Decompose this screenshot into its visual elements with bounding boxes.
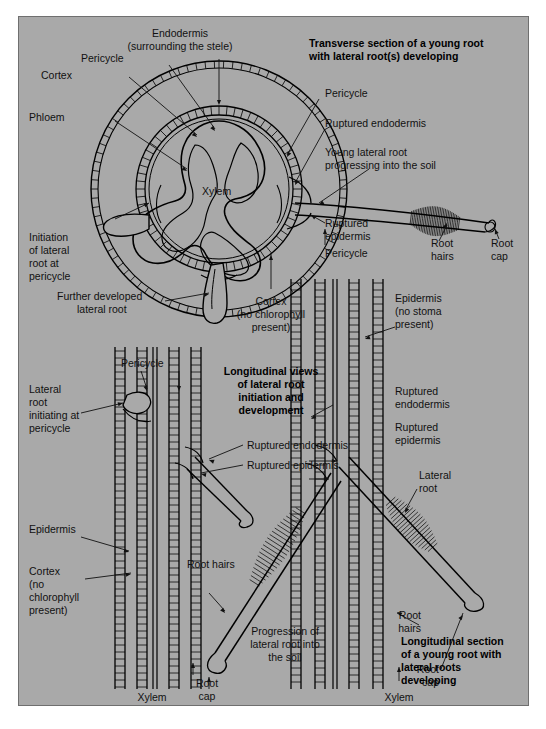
lateral-root-initiation-left [104,214,149,236]
label-pericycle-right: Pericycle [325,87,368,99]
right-lateral-root-cap [465,593,484,611]
diagram-labels: Transverse section of a young root with … [29,27,513,703]
lower-lateral-root-cap [208,653,227,673]
label-pericycle-right-2: Pericycle [325,247,368,259]
label-ruptured-endodermis-r-line1: Ruptured [395,385,438,397]
root-hairs-transverse [410,206,460,236]
lateral-root-initiating-bulge [123,392,151,413]
label-further-developed-line1: Further developed [57,290,142,302]
label-progression-line3: the soil [268,651,301,663]
label-initiation-line1: Initiation [29,231,68,243]
ruptured-endodermis-flap-middle [185,447,203,463]
label-pericycle-longitudinal: Pericycle [121,357,164,369]
label-phloem: Phloem [29,111,65,123]
label-progression-line2: lateral root into [250,638,320,650]
label-cortex-nochl-line3: present) [252,321,291,333]
label-root-hairs-r-line1: Root [399,609,421,621]
label-root-cap-transverse-line2: cap [491,250,508,262]
label-cortex-longitudinal-line2: (no [29,578,44,590]
label-epidermis-nostoma-line1: Epidermis [395,292,442,304]
label-root-hairs-mid: Root hairs [187,558,235,570]
label-cortex-transverse: Cortex [41,69,73,81]
label-epidermis-nostoma-line3: present) [395,318,434,330]
label-pericycle-left: Pericycle [81,52,124,64]
root-hairs-lower-middle [250,508,306,586]
label-lateral-root-line2: root [419,482,437,494]
label-lateral-root-init-line1: Lateral [29,383,61,395]
label-root-cap-transverse-line1: Root [491,237,513,249]
label-root-cap-mid-line1: Root [196,677,218,689]
root-anatomy-diagram: Transverse section of a young root with … [19,17,530,707]
label-epidermis-longitudinal: Epidermis [29,523,76,535]
label-initiation-line2: of lateral [29,244,69,256]
longitudinal-views-heading-line2: of lateral root [237,378,305,390]
label-young-lateral-root-line1: Young lateral root [325,146,407,158]
xylem-lobe-upper-left [162,145,217,251]
label-cortex-longitudinal-line3: chlorophyll [29,591,79,603]
longitudinal-section-heading-line3: lateral roots [401,661,461,673]
label-xylem-transverse: Xylem [202,185,231,197]
label-xylem-right: Xylem [384,691,413,703]
middle-lateral-root-tip [239,511,253,528]
label-lateral-root-init-line3: initiating at [29,409,79,421]
label-cortex-longitudinal-line4: present) [29,604,68,616]
label-endodermis-line1: Endodermis [152,27,208,39]
ruptured-epidermis-flap-middle [175,463,193,479]
longitudinal-views-heading-line4: development [239,404,304,416]
label-ruptured-epidermis-mid: Ruptured epidermis [247,459,339,471]
label-initiation-line3: root at [29,257,59,269]
label-root-hairs-r-line2: hairs [398,622,421,634]
label-ruptured-endodermis-transverse: Ruptured endodermis [325,117,426,129]
label-ruptured-epidermis-transverse-line2: epidermis [325,230,371,242]
label-ruptured-epidermis-r-line2: epidermis [395,434,441,446]
phloem-pocket-left [157,185,162,223]
label-root-hairs-transverse-line2: hairs [431,250,454,262]
label-cortex-longitudinal-line1: Cortex [29,565,61,577]
label-epidermis-nostoma-line2: (no stoma [395,305,442,317]
label-initiation-line4: pericycle [29,270,71,282]
transverse-heading-line2: with lateral root(s) developing [308,50,458,62]
label-young-lateral-root-line2: progressing into the soil [325,159,436,171]
transverse-heading-line1: Transverse section of a young root [309,37,484,49]
label-ruptured-endodermis-r-line2: endodermis [395,398,450,410]
label-lateral-root-init-line2: root [29,396,47,408]
label-root-hairs-transverse-line1: Root [431,237,453,249]
label-cortex-nochl-line1: Cortex [256,295,288,307]
phloem-pocket-right [277,185,282,223]
label-lateral-root-line1: Lateral [419,469,451,481]
figure-frame: Transverse section of a young root with … [18,16,529,706]
longitudinal-views-heading-line1: Longitudinal views [224,365,319,377]
label-xylem-left: Xylem [137,691,166,703]
label-cortex-nochl-line2: (no chlorophyll [237,308,305,320]
longitudinal-section-heading-line2: of a young root with [401,648,501,660]
label-ruptured-epidermis-r-line1: Ruptured [395,421,438,433]
right-lateral-root-upper-wall [349,457,475,593]
label-ruptured-epidermis-transverse-line1: Ruptured [325,217,368,229]
label-ruptured-endodermis-mid: Ruptured endodermis [247,439,348,451]
label-root-cap-mid-line2: cap [199,690,216,702]
label-lateral-root-init-line4: pericycle [29,422,71,434]
longitudinal-section-heading-line1: Longitudinal section [401,635,504,647]
label-progression-line1: Progression of [251,625,319,637]
longitudinal-views-heading-line3: initiation and [238,391,303,403]
longitudinal-section-heading-line4: developing [401,674,456,686]
label-endodermis-line2: (surrounding the stele) [127,40,232,52]
label-further-developed-line2: lateral root [77,303,127,315]
transverse-section-drawing [91,59,499,323]
